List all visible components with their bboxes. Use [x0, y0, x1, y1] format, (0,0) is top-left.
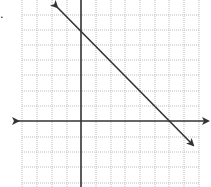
- grid-lines: [22, 0, 199, 187]
- coordinate-graph: [0, 0, 211, 187]
